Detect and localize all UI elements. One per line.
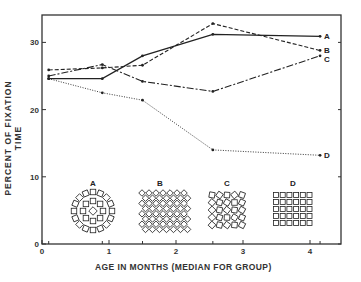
data-point xyxy=(141,64,144,67)
y-tick-label: 20 xyxy=(30,106,39,115)
data-point xyxy=(101,91,104,94)
data-point xyxy=(47,75,50,78)
pattern-d-grid xyxy=(274,193,313,226)
x-tick-label: 2 xyxy=(174,247,179,256)
series-label-d: D xyxy=(324,151,330,160)
data-point xyxy=(101,67,104,70)
x-tick-label: 0 xyxy=(40,247,45,256)
data-point xyxy=(101,63,104,66)
data-point xyxy=(141,99,144,102)
pattern-c-label: C xyxy=(224,179,230,188)
data-point xyxy=(211,33,214,36)
y-tick-label: 30 xyxy=(30,38,39,47)
series-line-d xyxy=(49,79,320,156)
data-point xyxy=(211,149,214,152)
data-point xyxy=(141,54,144,57)
series-label-c: C xyxy=(324,55,330,64)
data-point xyxy=(47,69,50,72)
line-chart: 010203001234ABCDABCD xyxy=(0,0,361,282)
data-point xyxy=(319,154,322,157)
pattern-c-random xyxy=(208,191,246,229)
x-tick-label: 4 xyxy=(308,247,313,256)
data-point xyxy=(211,22,214,25)
y-tick-label: 10 xyxy=(30,173,39,182)
pattern-a-label: A xyxy=(90,179,96,188)
series-line-c xyxy=(49,56,320,92)
series-line-a xyxy=(49,34,320,78)
x-tick-label: 1 xyxy=(107,247,112,256)
pattern-a-concentric xyxy=(71,189,115,233)
data-point xyxy=(319,35,322,38)
x-tick-label: 3 xyxy=(241,247,246,256)
x-axis-label: AGE IN MONTHS (MEDIAN FOR GROUP) xyxy=(95,262,325,272)
data-point xyxy=(101,77,104,80)
series-label-a: A xyxy=(324,32,330,41)
data-point xyxy=(211,90,214,93)
data-point xyxy=(319,54,322,57)
y-axis-label: PERCENT OF FIXATION TIME xyxy=(3,73,23,203)
pattern-d-label: D xyxy=(290,179,296,188)
series-line-b xyxy=(49,24,320,70)
pattern-b-label: B xyxy=(157,179,163,188)
pattern-b-diamonds xyxy=(139,190,191,233)
data-point xyxy=(319,49,322,52)
data-point xyxy=(141,80,144,83)
data-point xyxy=(47,77,50,80)
